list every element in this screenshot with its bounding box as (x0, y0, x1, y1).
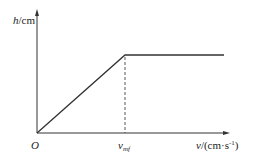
origin-label: O (31, 140, 39, 151)
vmf-tick-label: vmf (118, 140, 130, 153)
chart-canvas (0, 0, 255, 159)
data-line (37, 55, 224, 133)
y-axis-label: h/cm (13, 15, 35, 26)
y-axis-arrow-icon (35, 9, 39, 16)
x-axis-arrow-icon (223, 131, 230, 135)
x-axis-label: v/(cm·s-1) (196, 140, 239, 151)
